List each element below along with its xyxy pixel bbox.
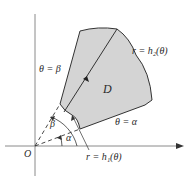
- label-angle-beta: β: [50, 119, 55, 129]
- label-theta-alpha: θ = α: [115, 117, 137, 127]
- ray-theta-alpha: [35, 129, 80, 146]
- label-theta-beta: θ = β: [39, 64, 61, 74]
- x-axis-arrowhead-icon: [176, 143, 184, 149]
- label-angle-alpha: α: [66, 133, 71, 143]
- label-inner-curve: r = h₁(θ): [86, 152, 122, 162]
- label-origin: O: [24, 149, 31, 159]
- ray-theta-beta: [35, 104, 60, 146]
- label-outer-curve: r = h₂(θ): [132, 46, 168, 56]
- label-region-d: D: [103, 83, 112, 95]
- region-d: [60, 28, 152, 129]
